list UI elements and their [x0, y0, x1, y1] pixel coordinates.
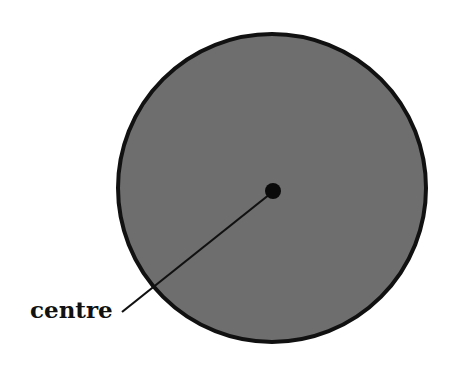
- centre-dot: [265, 183, 281, 199]
- centre-label: centre: [30, 296, 113, 323]
